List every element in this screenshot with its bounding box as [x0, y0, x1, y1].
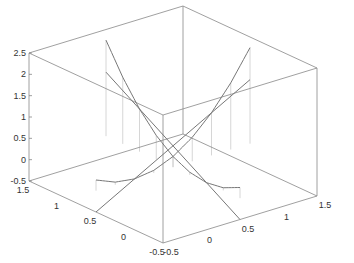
series-line-b: [96, 80, 250, 212]
y-tick-label: 1: [284, 212, 289, 222]
z-tick-label: 0: [21, 155, 26, 165]
axis-box: [29, 6, 317, 243]
tick-labels: -0.500.511.522.5-0.500.511.5-0.500.511.5: [10, 48, 331, 257]
z-tick-label: 0.5: [13, 133, 26, 143]
x-tick-label: 0: [121, 232, 126, 242]
y-tick-label: 1.5: [319, 200, 332, 210]
z-tick-label: 2: [21, 69, 26, 79]
top-front-right-edge: [163, 68, 317, 115]
impulse-lines: [96, 40, 250, 198]
y-tick-label: 0.5: [242, 224, 255, 234]
z-tick-label: 1: [21, 112, 26, 122]
chart-container: -0.500.511.522.5-0.500.511.5-0.500.511.5: [0, 0, 354, 263]
x-tick-label: 0.5: [84, 216, 97, 226]
top-front-left-edge: [29, 53, 163, 115]
y-tick-label: -0.5: [163, 247, 179, 257]
plot-3d: -0.500.511.522.5-0.500.511.5-0.500.511.5: [0, 0, 354, 263]
z-tick-label: 1.5: [13, 91, 26, 101]
x-tick-label: 1.5: [17, 185, 30, 195]
x-tick-label: 1: [54, 201, 59, 211]
y-tick-label: 0: [207, 235, 212, 245]
series-curves: [96, 40, 250, 219]
z-tick-label: 2.5: [13, 48, 26, 58]
